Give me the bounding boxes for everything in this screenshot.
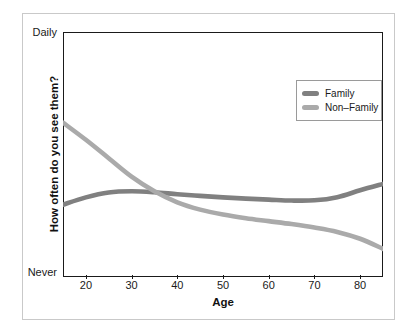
x-axis-title: Age (63, 296, 383, 308)
x-tick-label: 80 (345, 279, 375, 291)
x-tick-label: 70 (299, 279, 329, 291)
line-series-family (63, 184, 383, 205)
chart-legend: Family Non–Family (296, 80, 382, 121)
legend-item-family: Family (302, 87, 377, 100)
y-axis-bottom-label: Never (0, 266, 57, 278)
plot-lines (63, 32, 383, 277)
x-tick-label: 40 (162, 279, 192, 291)
legend-swatch-non-family (302, 105, 319, 110)
y-axis-title: How often do you see them? (48, 54, 60, 254)
legend-label-non-family: Non–Family (325, 102, 378, 113)
x-tick-label: 60 (254, 279, 284, 291)
x-axis-ticks: 20304050607080 (63, 279, 383, 295)
legend-label-family: Family (325, 88, 354, 99)
x-tick-label: 20 (71, 279, 101, 291)
y-axis-top-label: Daily (0, 26, 57, 38)
chart-figure: Daily Never How often do you see them? 2… (0, 0, 414, 332)
x-tick-label: 30 (117, 279, 147, 291)
legend-item-non-family: Non–Family (302, 101, 377, 114)
line-series-non-family (63, 123, 383, 249)
legend-swatch-family (302, 91, 319, 96)
x-tick-label: 50 (208, 279, 238, 291)
